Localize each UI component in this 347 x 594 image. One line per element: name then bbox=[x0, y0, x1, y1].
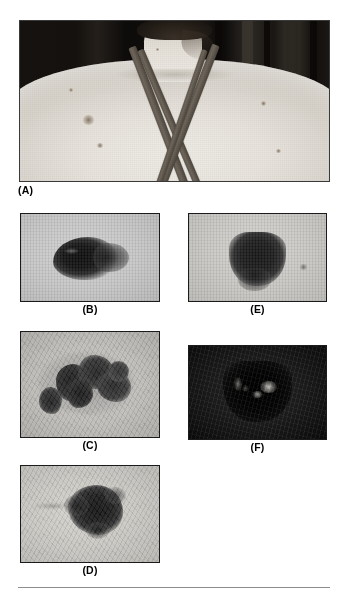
panel-label-f: (F) bbox=[188, 441, 327, 453]
panel-label-b: (B) bbox=[20, 303, 160, 315]
panel-d-image bbox=[20, 465, 160, 563]
skin-texture bbox=[21, 214, 159, 301]
photo-grain bbox=[20, 21, 329, 181]
panel-b-image bbox=[20, 213, 160, 302]
skin-texture bbox=[21, 466, 159, 562]
skin-texture bbox=[189, 346, 326, 439]
panel-a-image bbox=[19, 20, 330, 182]
panel-f-image bbox=[188, 345, 327, 440]
skin-texture bbox=[189, 214, 326, 301]
footer-divider bbox=[18, 587, 330, 588]
panel-e-image bbox=[188, 213, 327, 302]
skin-texture bbox=[21, 332, 159, 437]
panel-label-d: (D) bbox=[20, 564, 160, 576]
panel-label-c: (C) bbox=[20, 439, 160, 451]
panel-label-e: (E) bbox=[188, 303, 327, 315]
panel-label-a: (A) bbox=[18, 184, 33, 196]
figure-root: (A) (B) (E) (C) (F) bbox=[0, 0, 347, 594]
panel-c-image bbox=[20, 331, 160, 438]
